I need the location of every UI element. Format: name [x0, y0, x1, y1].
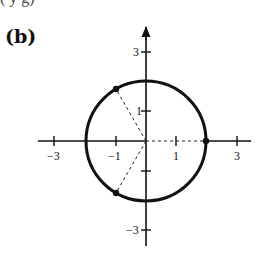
y-label-neg3: −3	[126, 223, 139, 237]
y-label-1: 1	[136, 104, 142, 118]
x-label-neg1: −1	[108, 149, 121, 163]
y-label-3: 3	[133, 45, 139, 59]
y-axis	[141, 27, 151, 246]
point-2-0	[203, 138, 209, 144]
x-label-neg3: −3	[47, 149, 60, 163]
circle-diagram: −3 −1 1 3 3 1 −3	[0, 0, 275, 253]
x-axis	[38, 136, 251, 146]
x-label-1: 1	[173, 149, 179, 163]
x-label-3: 3	[234, 149, 240, 163]
point-upper-left	[113, 86, 119, 92]
point-lower-left	[113, 190, 119, 196]
